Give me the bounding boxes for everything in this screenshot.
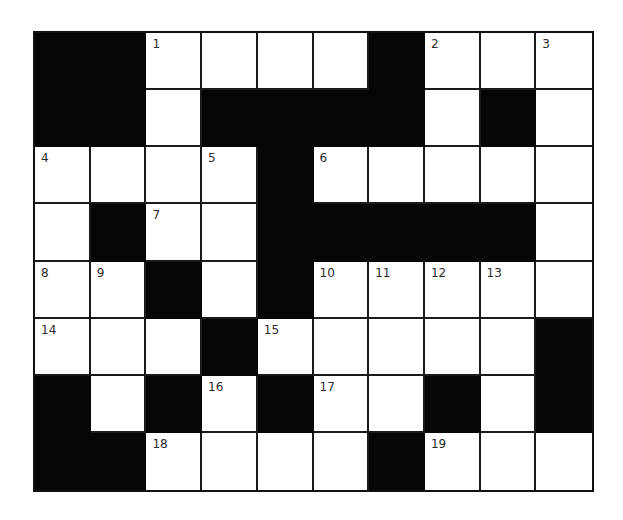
black-cell [425,376,481,433]
black-cell [258,147,314,204]
crossword-cell[interactable]: 13 [481,262,537,319]
black-cell [91,433,147,490]
black-cell [35,376,91,433]
black-cell [91,33,147,90]
crossword-cell[interactable] [481,33,537,90]
crossword-cell[interactable] [314,319,370,376]
clue-number: 14 [41,324,56,336]
black-cell [481,90,537,147]
crossword-cell[interactable] [258,33,314,90]
clue-number: 10 [320,267,335,279]
crossword-cell[interactable]: 4 [35,147,91,204]
crossword-cell[interactable] [369,376,425,433]
crossword-cell[interactable]: 3 [536,33,592,90]
crossword-cell[interactable]: 1 [146,33,202,90]
crossword-cell[interactable] [369,147,425,204]
crossword-cell[interactable] [91,147,147,204]
clue-number: 3 [542,38,550,50]
black-cell [536,376,592,433]
crossword-cell[interactable]: 11 [369,262,425,319]
crossword-cell[interactable]: 9 [91,262,147,319]
clue-number: 8 [41,267,49,279]
clue-number: 6 [320,152,328,164]
black-cell [536,319,592,376]
black-cell [369,433,425,490]
crossword-cell[interactable] [146,90,202,147]
crossword-cell[interactable] [146,147,202,204]
crossword-cell[interactable]: 8 [35,262,91,319]
clue-number: 12 [431,267,446,279]
clue-number: 2 [431,38,439,50]
black-cell [202,319,258,376]
crossword-cell[interactable] [202,433,258,490]
crossword-cell[interactable] [536,147,592,204]
crossword-cell[interactable]: 17 [314,376,370,433]
black-cell [91,204,147,261]
crossword-cell[interactable] [91,376,147,433]
crossword-cell[interactable] [314,33,370,90]
clue-number: 7 [152,209,160,221]
crossword-cell[interactable] [425,319,481,376]
crossword-cell[interactable] [481,376,537,433]
clue-number: 18 [152,438,167,450]
crossword-cell[interactable]: 14 [35,319,91,376]
crossword-cell[interactable] [425,147,481,204]
black-cell [425,204,481,261]
crossword-cell[interactable] [425,90,481,147]
crossword-cell[interactable] [202,204,258,261]
black-cell [314,204,370,261]
black-cell [146,376,202,433]
crossword-cell[interactable] [202,262,258,319]
clue-number: 9 [97,267,105,279]
black-cell [35,33,91,90]
crossword-cell[interactable] [258,433,314,490]
clue-number: 17 [320,381,335,393]
crossword-cell[interactable]: 19 [425,433,481,490]
black-cell [91,90,147,147]
crossword-cell[interactable]: 5 [202,147,258,204]
crossword-cell[interactable]: 18 [146,433,202,490]
crossword-cell[interactable] [314,433,370,490]
crossword-cell[interactable]: 6 [314,147,370,204]
crossword-cell[interactable] [536,433,592,490]
clue-number: 1 [152,38,160,50]
crossword-cell[interactable] [536,90,592,147]
crossword-cell[interactable]: 2 [425,33,481,90]
black-cell [258,90,314,147]
crossword-cell[interactable] [91,319,147,376]
crossword-grid: 12345678910111213141516171819 [33,31,594,492]
black-cell [202,90,258,147]
crossword-cell[interactable]: 10 [314,262,370,319]
crossword-cell[interactable] [146,319,202,376]
crossword-cell[interactable] [536,204,592,261]
crossword-cell[interactable] [369,319,425,376]
crossword-cell[interactable] [481,433,537,490]
black-cell [369,90,425,147]
clue-number: 13 [487,267,502,279]
black-cell [146,262,202,319]
crossword-cell[interactable] [35,204,91,261]
clue-number: 16 [208,381,223,393]
black-cell [258,204,314,261]
clue-number: 15 [264,324,279,336]
crossword-cell[interactable] [481,147,537,204]
black-cell [369,33,425,90]
crossword-cell[interactable] [481,319,537,376]
black-cell [258,262,314,319]
clue-number: 5 [208,152,216,164]
black-cell [481,204,537,261]
crossword-cell[interactable]: 7 [146,204,202,261]
black-cell [35,433,91,490]
clue-number: 11 [375,267,390,279]
crossword-cell[interactable] [536,262,592,319]
black-cell [314,90,370,147]
black-cell [35,90,91,147]
crossword-cell[interactable]: 12 [425,262,481,319]
black-cell [258,376,314,433]
crossword-cell[interactable]: 16 [202,376,258,433]
crossword-cell[interactable]: 15 [258,319,314,376]
clue-number: 19 [431,438,446,450]
black-cell [369,204,425,261]
crossword-cell[interactable] [202,33,258,90]
clue-number: 4 [41,152,49,164]
